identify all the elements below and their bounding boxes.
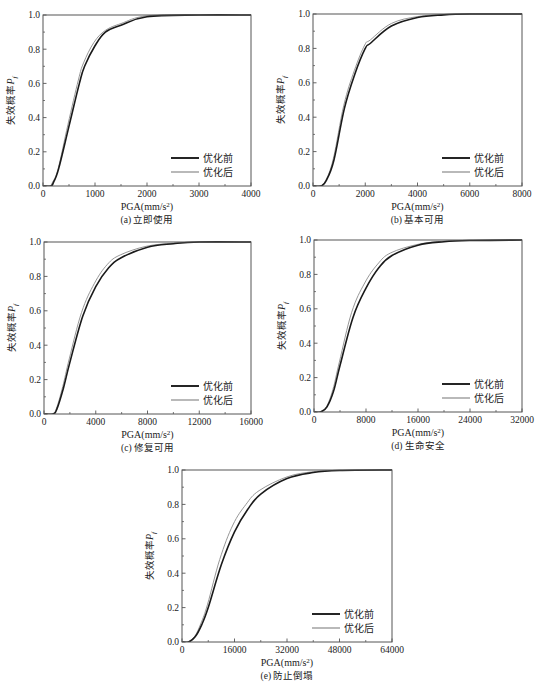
- x-label-prefix: PGA(mm/s: [261, 657, 307, 669]
- x-tick-label: 12000: [187, 417, 211, 427]
- legend-label-before: 优化前: [344, 608, 374, 620]
- y-label-subscript: f: [11, 75, 19, 78]
- y-axis-label: 失效概率Pf: [5, 75, 19, 124]
- x-label-suffix: ): [310, 657, 313, 669]
- x-tick-label: 0: [41, 189, 46, 199]
- y-label-symbol: P: [144, 534, 155, 541]
- y-tick-label: 0.8: [298, 44, 310, 54]
- y-tick-label: 0.4: [28, 113, 40, 123]
- x-tick-label: 0: [311, 189, 316, 199]
- y-tick-label: 0.6: [167, 534, 179, 544]
- y-tick-label: 0.2: [167, 603, 179, 613]
- x-label-suffix: ): [170, 201, 173, 213]
- y-tick-label: 0.2: [298, 147, 310, 157]
- y-label-symbol: P: [276, 304, 287, 311]
- x-tick-label: 1000: [86, 189, 105, 199]
- y-tick-label: 0.8: [29, 272, 41, 282]
- y-tick-label: 0.8: [167, 500, 179, 510]
- x-tick-label: 64000: [380, 645, 404, 655]
- subplot-c: 04000800012000160000.00.20.40.60.81.0PGA…: [6, 237, 263, 454]
- x-tick-label: 24000: [458, 415, 482, 425]
- subplot-d: 080001600024000320000.00.20.40.60.81.0PG…: [276, 235, 534, 452]
- legend-label-after: 优化后: [203, 166, 233, 178]
- y-tick-label: 0.6: [298, 78, 310, 88]
- subplot-e: 0160003200048000640000.00.20.40.60.81.0P…: [144, 465, 404, 682]
- legend-label-before: 优化前: [474, 152, 504, 164]
- y-label-text: 失效概率: [144, 540, 155, 580]
- x-axis-label: PGA(mm/s2): [121, 429, 173, 442]
- y-label-symbol: P: [5, 78, 16, 85]
- y-tick-label: 1.0: [28, 10, 40, 20]
- y-label-text: 失效概率: [5, 85, 16, 125]
- legend-label-before: 优化前: [203, 152, 233, 164]
- y-axis-label: 失效概率Pf: [6, 303, 20, 352]
- y-tick-label: 0.2: [29, 375, 41, 385]
- x-label-suffix: ): [441, 427, 444, 439]
- y-label-subscript: f: [281, 75, 289, 78]
- y-tick-label: 0.8: [28, 45, 40, 55]
- x-label-suffix: ): [440, 201, 443, 213]
- y-tick-label: 1.0: [167, 465, 179, 475]
- x-tick-label: 48000: [328, 645, 352, 655]
- y-tick-label: 0.0: [29, 409, 41, 419]
- x-axis-label: PGA(mm/s2): [261, 657, 313, 670]
- x-tick-label: 3000: [190, 189, 209, 199]
- y-tick-label: 0.6: [29, 306, 41, 316]
- x-label-prefix: PGA(mm/s: [121, 201, 167, 213]
- y-label-text: 失效概率: [275, 84, 286, 124]
- x-axis-label: PGA(mm/s2): [121, 201, 173, 214]
- y-label-subscript: f: [12, 303, 20, 306]
- y-tick-label: 0.4: [29, 341, 41, 351]
- y-tick-label: 0.2: [299, 373, 311, 383]
- x-tick-label: 8000: [138, 417, 157, 427]
- x-tick-label: 16000: [223, 645, 247, 655]
- legend-label-before: 优化前: [474, 378, 504, 390]
- x-tick-label: 32000: [275, 645, 299, 655]
- y-tick-label: 0.6: [28, 79, 40, 89]
- x-tick-label: 0: [42, 417, 47, 427]
- y-tick-label: 0.8: [299, 270, 311, 280]
- x-tick-label: 2000: [356, 189, 375, 199]
- x-tick-label: 32000: [510, 415, 534, 425]
- x-axis-label: PGA(mm/s2): [391, 201, 443, 214]
- legend-label-after: 优化后: [344, 622, 374, 634]
- x-tick-label: 4000: [408, 189, 427, 199]
- y-tick-label: 0.4: [167, 569, 179, 579]
- y-tick-label: 1.0: [299, 235, 311, 245]
- subplot-caption: (e) 防止倒塌: [261, 670, 314, 682]
- x-tick-label: 0: [180, 645, 185, 655]
- subplot-caption: (d) 生命安全: [391, 440, 444, 452]
- y-label-subscript: f: [282, 301, 290, 304]
- x-label-prefix: PGA(mm/s: [121, 429, 167, 441]
- legend-label-after: 优化后: [474, 166, 504, 178]
- x-tick-label: 8000: [357, 415, 376, 425]
- subplot-a: 010002000300040000.00.20.40.60.81.0PGA(m…: [5, 10, 261, 226]
- legend-label-after: 优化后: [474, 392, 504, 404]
- x-tick-label: 4000: [86, 417, 105, 427]
- y-tick-label: 0.0: [28, 181, 40, 191]
- y-axis-label: 失效概率Pf: [144, 531, 158, 580]
- y-tick-label: 0.4: [299, 339, 311, 349]
- y-tick-label: 0.0: [167, 637, 179, 647]
- subplot-caption: (c) 修复可用: [121, 442, 174, 454]
- y-label-text: 失效概率: [276, 310, 287, 350]
- subplot-caption: (b) 基本可用: [391, 214, 444, 226]
- subplot-b: 020004000600080000.00.20.40.60.81.0PGA(m…: [275, 9, 532, 226]
- x-tick-label: 6000: [460, 189, 479, 199]
- y-axis-label: 失效概率Pf: [276, 301, 290, 350]
- subplot-caption: (a) 立即使用: [121, 214, 174, 226]
- legend-label-after: 优化后: [203, 394, 233, 406]
- x-tick-label: 4000: [242, 189, 261, 199]
- y-tick-label: 0.0: [299, 407, 311, 417]
- x-axis-label: PGA(mm/s2): [392, 427, 444, 440]
- y-tick-label: 1.0: [298, 9, 310, 19]
- x-tick-label: 8000: [513, 189, 532, 199]
- y-label-symbol: P: [275, 78, 286, 85]
- legend-label-before: 优化前: [203, 380, 233, 392]
- x-tick-label: 2000: [138, 189, 157, 199]
- y-tick-label: 1.0: [29, 237, 41, 247]
- y-label-symbol: P: [6, 306, 17, 313]
- y-tick-label: 0.4: [298, 113, 310, 123]
- y-tick-label: 0.6: [299, 304, 311, 314]
- x-tick-label: 0: [312, 415, 317, 425]
